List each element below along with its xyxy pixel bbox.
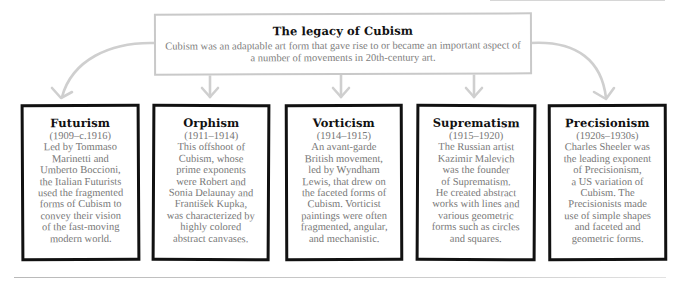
card-description: Charles Sheeler was the leading exponent… bbox=[551, 141, 664, 244]
card-description: Led by Tommaso Marinetti and Umberto Boc… bbox=[24, 141, 138, 244]
top-divider bbox=[490, 0, 665, 1]
bottom-divider bbox=[14, 277, 512, 278]
card-dates: (1911–1914) bbox=[155, 130, 267, 142]
card-title: Vorticism bbox=[288, 117, 400, 130]
card-precisionism: Precisionism (1920s–1930s) Charles Sheel… bbox=[548, 104, 668, 261]
card-description: This offshoot of Cubism, whose prime exp… bbox=[155, 141, 268, 244]
header-description: Cubism was an adaptable art form that ga… bbox=[164, 39, 522, 64]
card-title: Suprematism bbox=[419, 117, 533, 131]
card-dates: (1914–1915) bbox=[288, 130, 400, 142]
card-dates: (1909–c.1916) bbox=[24, 130, 137, 142]
card-orphism: Orphism (1911–1914) This offshoot of Cub… bbox=[152, 104, 271, 262]
header-box: The legacy of Cubism Cubism was an adapt… bbox=[154, 12, 532, 75]
card-title: Orphism bbox=[155, 117, 267, 131]
bottom-divider-fade bbox=[512, 277, 666, 278]
card-title: Precisionism bbox=[551, 117, 664, 130]
arrow-futurism bbox=[62, 43, 154, 97]
card-description: An avant-garde British movement, led by … bbox=[288, 141, 400, 244]
card-futurism: Futurism (1909–c.1916) Led by Tommaso Ma… bbox=[21, 104, 141, 262]
card-suprematism: Suprematism (1915–1920) The Russian arti… bbox=[416, 104, 537, 262]
card-dates: (1915–1920) bbox=[419, 130, 533, 142]
card-title: Futurism bbox=[24, 117, 137, 131]
arrow-precisionism bbox=[530, 43, 606, 98]
card-dates: (1920s–1930s) bbox=[551, 130, 664, 142]
card-vorticism: Vorticism (1914–1915) An avant-garde Bri… bbox=[285, 104, 404, 261]
card-description: The Russian artist Kazimir Malevich was … bbox=[419, 141, 534, 244]
header-title: The legacy of Cubism bbox=[156, 23, 530, 38]
